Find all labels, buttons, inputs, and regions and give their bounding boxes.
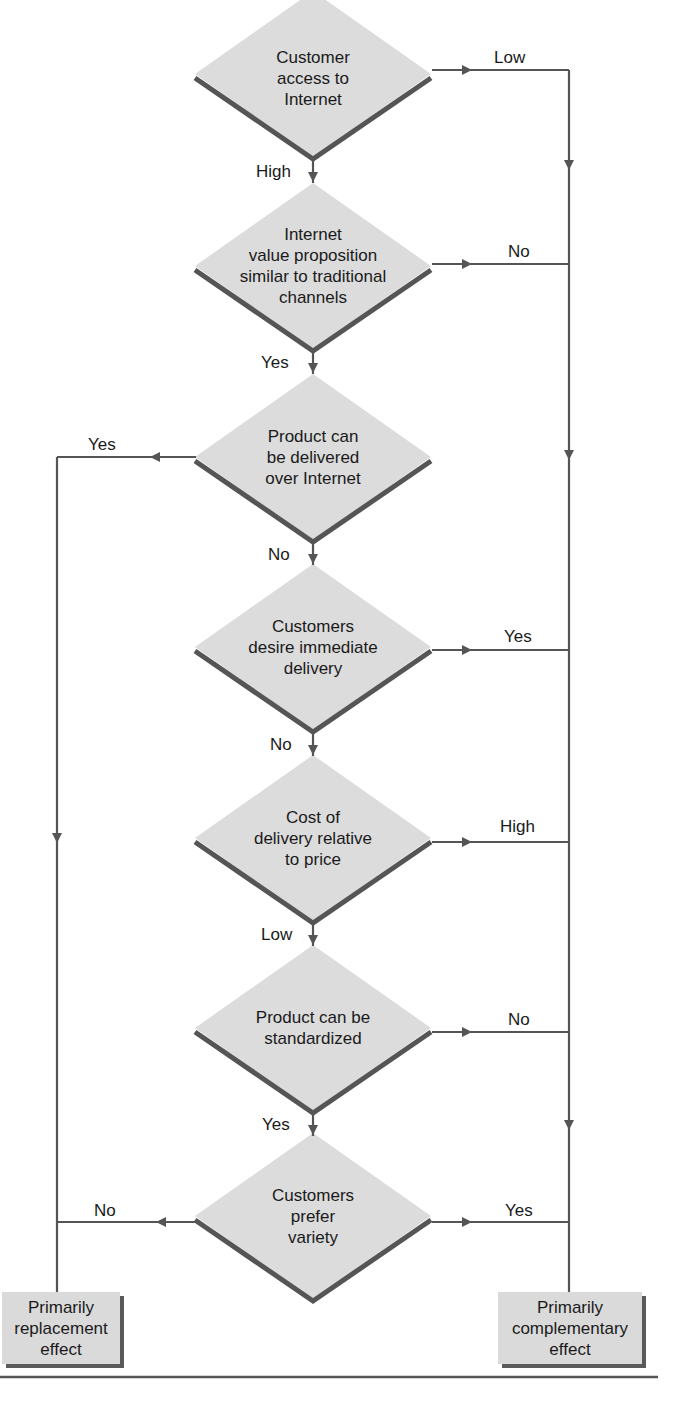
decision-cost-of-delivery: Cost of delivery relative to price (208, 780, 418, 896)
edge-label-yes: Yes (504, 627, 532, 647)
edge-label-yes: Yes (88, 435, 116, 455)
decision-standardized: Product can be standardized (208, 970, 418, 1086)
edge-label-high: High (256, 162, 291, 182)
flowchart: Customer access to Internet Internet val… (0, 0, 686, 1408)
edge-label-no: No (508, 242, 530, 262)
decision-customer-access: Customer access to Internet (213, 20, 413, 136)
edge-label-low: Low (261, 925, 292, 945)
decision-immediate-delivery: Customers desire immediate delivery (208, 589, 418, 705)
edge-label-low: Low (494, 48, 525, 68)
edge-label-no: No (508, 1010, 530, 1030)
edge-label-no: No (268, 545, 290, 565)
edge-label-no: No (94, 1201, 116, 1221)
decision-value-proposition: Internet value proposition similar to tr… (203, 208, 423, 324)
edge-label-no: No (270, 735, 292, 755)
edge-label-yes: Yes (505, 1201, 533, 1221)
edge-label-yes: Yes (262, 1115, 290, 1135)
edge-label-yes: Yes (261, 353, 289, 373)
decision-delivered-over-internet: Product can be delivered over Internet (213, 399, 413, 515)
decision-prefer-variety: Customers prefer variety (213, 1158, 413, 1274)
edge-label-high: High (500, 817, 535, 837)
outcome-complementary-effect: Primarily complementary effect (498, 1292, 642, 1364)
outcome-replacement-effect: Primarily replacement effect (2, 1292, 120, 1364)
